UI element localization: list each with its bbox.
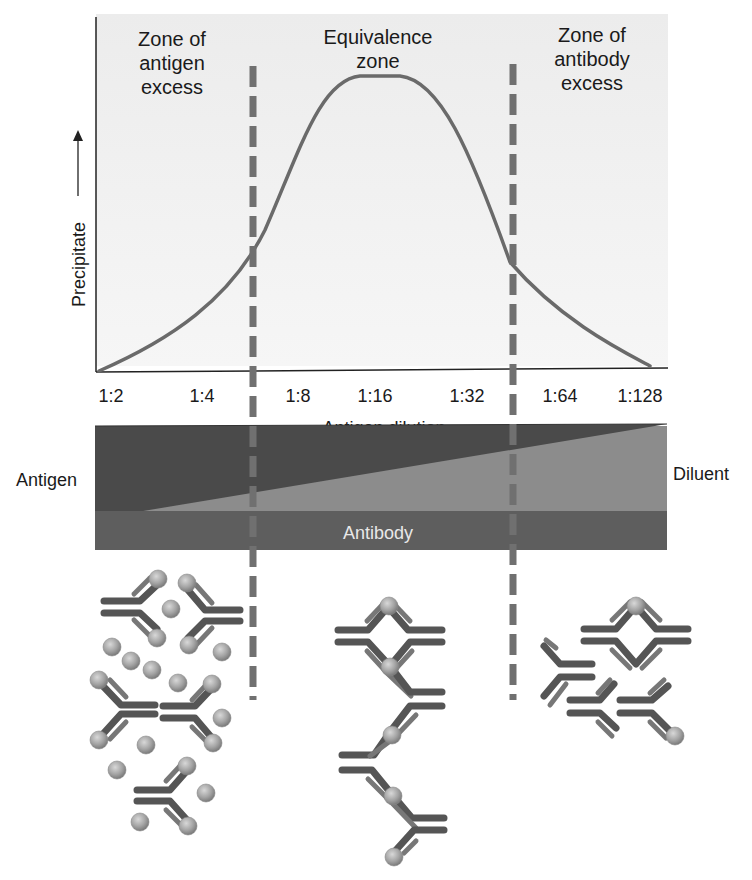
equivalence-lattice <box>338 597 444 866</box>
x-axis-ticks: 1:2 1:4 1:8 1:16 1:32 1:64 1:128 <box>98 386 662 406</box>
zone-label-antibody-excess: Zone of antibody excess <box>554 24 630 94</box>
svg-text:1:128: 1:128 <box>617 386 662 406</box>
svg-text:zone: zone <box>356 50 399 72</box>
svg-text:Zone of: Zone of <box>138 28 206 50</box>
svg-text:1:64: 1:64 <box>542 386 577 406</box>
y-axis-label: Precipitate <box>69 222 89 307</box>
svg-text:1:2: 1:2 <box>98 386 123 406</box>
svg-text:excess: excess <box>561 72 623 94</box>
svg-text:1:8: 1:8 <box>285 386 310 406</box>
precipitation-diagram: Precipitate Zone of antigen excess Equiv… <box>0 0 752 880</box>
svg-text:Equivalence: Equivalence <box>324 26 433 48</box>
svg-text:1:16: 1:16 <box>357 386 392 406</box>
antibody-excess-molecules <box>544 597 688 745</box>
svg-text:excess: excess <box>141 76 203 98</box>
svg-text:antigen: antigen <box>139 52 205 74</box>
svg-text:1:32: 1:32 <box>449 386 484 406</box>
y-axis-arrow-icon <box>73 130 83 196</box>
zone-label-antigen-excess: Zone of antigen excess <box>138 28 206 98</box>
antigen-excess-molecules <box>90 570 240 835</box>
svg-text:antibody: antibody <box>554 48 630 70</box>
antibody-label: Antibody <box>343 523 413 543</box>
antigen-label: Antigen <box>16 470 77 490</box>
diluent-label: Diluent <box>673 464 729 484</box>
svg-text:Zone of: Zone of <box>558 24 626 46</box>
x-axis <box>96 368 668 372</box>
svg-text:1:4: 1:4 <box>189 386 214 406</box>
